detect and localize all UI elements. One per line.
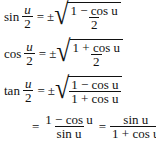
half-angle-fraction: u 2 bbox=[24, 40, 35, 67]
plus-minus-sign: ± bbox=[48, 83, 55, 99]
alt-fraction-1: 1 − cos u sin u bbox=[43, 113, 94, 140]
function-name: cos bbox=[4, 46, 21, 62]
half-angle-fraction: u 2 bbox=[22, 3, 33, 30]
equals-sign: = bbox=[39, 46, 46, 62]
plus-minus-sign: ± bbox=[49, 46, 56, 62]
function-name: sin bbox=[4, 9, 19, 25]
radicand-fraction: 1 + cos u 2 bbox=[71, 41, 122, 68]
radicand-fraction: 1 − cos u 2 bbox=[68, 4, 119, 31]
formula-tan-alternate-forms: = 1 − cos u sin u = sin u 1 + cos u bbox=[29, 113, 156, 140]
square-root: √ 1 − cos u 1 + cos u bbox=[55, 76, 122, 105]
equals-sign: = bbox=[37, 9, 44, 25]
equals-sign: = bbox=[32, 119, 39, 135]
radical-icon: √ bbox=[54, 0, 68, 33]
radical-icon: √ bbox=[56, 37, 70, 70]
equals-sign: = bbox=[37, 83, 44, 99]
alt-fraction-2: sin u 1 + cos u bbox=[110, 113, 156, 140]
square-root: √ 1 + cos u 2 bbox=[56, 39, 123, 68]
radical-icon: √ bbox=[55, 74, 69, 107]
function-name: tan bbox=[4, 83, 20, 99]
plus-minus-sign: ± bbox=[47, 9, 54, 25]
formula-sin-half-angle: sin u 2 = ± √ 1 − cos u 2 bbox=[4, 2, 121, 31]
formula-cos-half-angle: cos u 2 = ± √ 1 + cos u 2 bbox=[4, 39, 123, 68]
half-angle-fraction: u 2 bbox=[23, 77, 34, 104]
equals-sign: = bbox=[99, 119, 106, 135]
square-root: √ 1 − cos u 2 bbox=[54, 2, 121, 31]
radicand-fraction: 1 − cos u 1 + cos u bbox=[69, 78, 120, 105]
formula-tan-half-angle: tan u 2 = ± √ 1 − cos u 1 + cos u bbox=[4, 76, 122, 105]
